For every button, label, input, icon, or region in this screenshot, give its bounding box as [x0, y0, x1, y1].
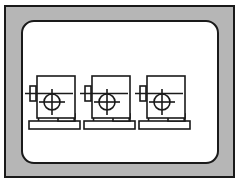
- machine-3[interactable]: [135, 76, 190, 129]
- machine-2[interactable]: [80, 76, 135, 129]
- base-plate: [139, 121, 190, 129]
- machines-drawing: [21, 20, 219, 164]
- base-plate: [29, 121, 80, 129]
- drawing-stage: [21, 20, 219, 164]
- machine-1[interactable]: [25, 76, 80, 129]
- machine-group: [25, 76, 190, 129]
- figure-root: [0, 0, 240, 184]
- base-plate: [84, 121, 135, 129]
